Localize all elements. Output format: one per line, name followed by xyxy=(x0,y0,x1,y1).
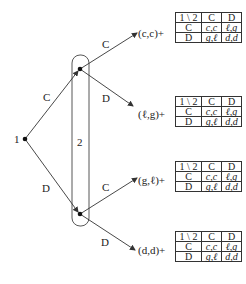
matrix-cell: g,ℓ xyxy=(202,33,222,43)
matrix-col-header: D xyxy=(222,162,242,172)
payoff-matrix-3: 1 \ 2 C D C c,c ℓ,g D g,ℓ d,d xyxy=(175,161,242,192)
matrix-row-header: C xyxy=(176,242,202,252)
matrix-col-header: C xyxy=(202,162,222,172)
payoff-matrix-2: 1 \ 2 C D C c,c ℓ,g D g,ℓ d,d xyxy=(175,96,242,127)
payoff-matrix-1: 1 \ 2 C D C c,c ℓ,g D g,ℓ d,d xyxy=(175,12,242,43)
matrix-cell: c,c xyxy=(202,23,222,33)
edge-label-root-D: D xyxy=(42,183,50,194)
matrix-cell: ℓ,g xyxy=(222,107,242,117)
matrix-cell: g,ℓ xyxy=(202,117,222,127)
matrix-corner: 1 \ 2 xyxy=(176,162,202,172)
edge-label-upper-D: D xyxy=(102,93,110,104)
matrix-col-header: D xyxy=(222,97,242,107)
matrix-corner: 1 \ 2 xyxy=(176,232,202,242)
edge-root-C xyxy=(25,71,78,139)
edge-label-upper-C: C xyxy=(102,39,109,50)
payoff-dd: (d,d)+ xyxy=(138,245,165,256)
matrix-cell: d,d xyxy=(222,252,242,262)
matrix-col-header: C xyxy=(202,97,222,107)
lower-node xyxy=(78,212,83,217)
matrix-row-header: D xyxy=(176,33,202,43)
info-set-label: 2 xyxy=(77,137,83,148)
matrix-col-header: C xyxy=(202,232,222,242)
matrix-cell: g,ℓ xyxy=(202,252,222,262)
edge-label-root-C: C xyxy=(43,92,50,103)
payoff-cc: (c,c)+ xyxy=(138,28,164,39)
matrix-col-header: D xyxy=(222,232,242,242)
edge-root-D xyxy=(25,139,78,212)
matrix-cell: d,d xyxy=(222,117,242,127)
upper-node xyxy=(78,67,83,72)
payoff-lg: (ℓ,g)+ xyxy=(138,109,165,120)
matrix-cell: c,c xyxy=(202,172,222,182)
matrix-col-header: C xyxy=(202,13,222,23)
matrix-cell: ℓ,g xyxy=(222,23,242,33)
matrix-cell: ℓ,g xyxy=(222,242,242,252)
root-node xyxy=(23,137,28,142)
matrix-cell: c,c xyxy=(202,242,222,252)
matrix-row-header: D xyxy=(176,252,202,262)
matrix-cell: ℓ,g xyxy=(222,172,242,182)
edge-label-lower-C: C xyxy=(102,182,109,193)
root-label: 1 xyxy=(14,134,20,145)
matrix-row-header: D xyxy=(176,117,202,127)
matrix-row-header: C xyxy=(176,23,202,33)
payoff-gl: (g,ℓ)+ xyxy=(138,175,165,186)
matrix-cell: d,d xyxy=(222,33,242,43)
payoff-matrix-4: 1 \ 2 C D C c,c ℓ,g D g,ℓ d,d xyxy=(175,231,242,262)
edge-label-lower-D: D xyxy=(101,237,109,248)
matrix-corner: 1 \ 2 xyxy=(176,13,202,23)
matrix-row-header: D xyxy=(176,182,202,192)
matrix-cell: g,ℓ xyxy=(202,182,222,192)
matrix-row-header: C xyxy=(176,172,202,182)
matrix-row-header: C xyxy=(176,107,202,117)
matrix-col-header: D xyxy=(222,13,242,23)
matrix-cell: c,c xyxy=(202,107,222,117)
matrix-corner: 1 \ 2 xyxy=(176,97,202,107)
matrix-cell: d,d xyxy=(222,182,242,192)
